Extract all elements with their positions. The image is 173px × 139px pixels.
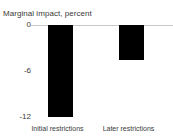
y-axis-tick-minus12: -12 xyxy=(3,113,31,121)
x-axis-label-later-restrictions: Later restrictions xyxy=(102,124,155,133)
bar-initial-restrictions[interactable] xyxy=(48,25,73,117)
plot-area xyxy=(31,0,173,121)
bar-chart: Marginal impact, percent 0 -6 -12 Initia… xyxy=(0,0,173,139)
y-axis: 0 -6 -12 xyxy=(0,0,31,121)
x-axis: Initial restrictions Later restrictions xyxy=(0,124,173,138)
x-axis-label-initial-restrictions: Initial restrictions xyxy=(31,124,84,133)
y-axis-tick-minus6: -6 xyxy=(3,67,31,75)
bar-later-restrictions[interactable] xyxy=(119,25,144,60)
y-axis-tick-0: 0 xyxy=(3,21,31,29)
